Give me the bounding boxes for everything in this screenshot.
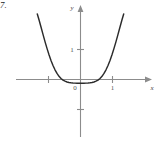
cubic-function-plot: y x 0 1 1 — [0, 0, 161, 145]
x-tick-label-one: 1 — [111, 84, 115, 92]
y-tick-label-one: 1 — [70, 46, 74, 54]
origin-label: 0 — [73, 84, 77, 92]
x-axis-arrowhead — [145, 77, 152, 83]
y-axis-label: y — [69, 4, 74, 12]
y-axis-arrowhead — [78, 5, 84, 12]
figure-container: 7. y x 0 1 1 — [0, 0, 161, 145]
x-axis-label: x — [149, 84, 154, 92]
